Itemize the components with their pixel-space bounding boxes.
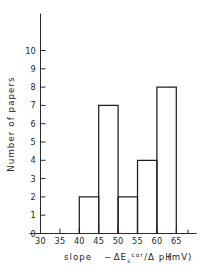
bar-45-50 <box>99 105 118 233</box>
y-tick-label-9: 9 <box>31 64 36 74</box>
x-axis-label-delta-e: ΔE <box>114 252 127 262</box>
y-axis-label-group: Number of papers <box>6 76 16 171</box>
x-tick-label-65: 65 <box>171 236 182 246</box>
x-tick-marks <box>41 229 189 234</box>
y-tick-labels: 0 1 2 3 4 5 6 7 8 9 10 <box>25 46 36 239</box>
bar-40-45 <box>79 197 98 234</box>
y-tick-label-7: 7 <box>31 100 36 110</box>
y-tick-label-2: 2 <box>31 192 36 202</box>
x-tick-labels: 30 35 40 45 50 55 60 65 <box>35 236 182 246</box>
y-tick-label-5: 5 <box>31 137 36 147</box>
y-tick-label-8: 8 <box>31 82 36 92</box>
x-tick-label-30: 30 <box>35 236 46 246</box>
y-tick-label-1: 1 <box>31 210 36 220</box>
x-axis-label-expression: −ΔEscor/Δ pH <box>104 251 173 263</box>
y-tick-label-10: 10 <box>25 46 36 56</box>
histogram-plot: 0 1 2 3 4 5 6 7 8 9 10 30 35 40 <box>0 0 209 273</box>
x-tick-label-50: 50 <box>113 236 124 246</box>
bar-55-60 <box>138 160 157 233</box>
x-tick-label-60: 60 <box>151 236 162 246</box>
bar-50-55 <box>118 197 137 234</box>
y-tick-label-3: 3 <box>31 174 36 184</box>
histogram-figure: 0 1 2 3 4 5 6 7 8 9 10 30 35 40 <box>0 0 209 273</box>
bar-60-65 <box>157 87 176 233</box>
axes-group <box>30 14 196 234</box>
x-tick-label-35: 35 <box>54 236 65 246</box>
y-tick-marks <box>41 51 46 234</box>
y-axis-label: Number of papers <box>6 76 16 171</box>
x-axis-label-superscript: cor <box>132 251 144 258</box>
x-tick-label-55: 55 <box>132 236 143 246</box>
x-tick-label-40: 40 <box>74 236 85 246</box>
x-axis-label-units: (mV) <box>168 252 193 262</box>
y-tick-label-6: 6 <box>31 119 36 129</box>
y-tick-label-4: 4 <box>31 155 36 165</box>
x-axis-label-slope: slope <box>64 252 92 262</box>
histogram-bars <box>79 87 176 233</box>
x-axis-label-minus: − <box>104 252 112 262</box>
x-tick-label-45: 45 <box>93 236 104 246</box>
x-axis-label-group: slope −ΔEscor/Δ pH (mV) <box>64 251 192 263</box>
